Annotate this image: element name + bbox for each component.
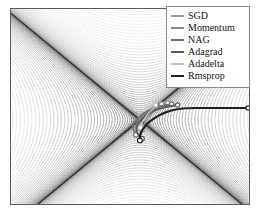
legend-swatch-nag bbox=[171, 39, 184, 41]
legend-swatch-adagrad bbox=[171, 51, 184, 53]
legend-swatch-rmsprop bbox=[171, 75, 184, 77]
legend-box: SGD Momentum NAG Adagrad Adadelta Rmspro… bbox=[166, 6, 250, 88]
legend-item-adadelta[interactable]: Adadelta bbox=[169, 58, 246, 70]
legend-item-sgd[interactable]: SGD bbox=[169, 10, 246, 22]
legend-item-nag[interactable]: NAG bbox=[169, 34, 246, 46]
legend-label-adagrad: Adagrad bbox=[188, 46, 222, 58]
legend-swatch-adadelta bbox=[171, 63, 184, 65]
legend-swatch-momentum bbox=[171, 27, 184, 29]
legend-label-momentum: Momentum bbox=[188, 22, 235, 34]
legend-label-rmsprop: Rmsprop bbox=[188, 70, 225, 82]
legend-label-adadelta: Adadelta bbox=[188, 58, 224, 70]
legend-item-adagrad[interactable]: Adagrad bbox=[169, 46, 246, 58]
figure-root: SGD Momentum NAG Adagrad Adadelta Rmspro… bbox=[0, 0, 261, 219]
legend-label-nag: NAG bbox=[188, 34, 210, 46]
legend-item-momentum[interactable]: Momentum bbox=[169, 22, 246, 34]
legend-item-rmsprop[interactable]: Rmsprop bbox=[169, 70, 246, 82]
legend-label-sgd: SGD bbox=[188, 10, 208, 22]
legend-swatch-sgd bbox=[171, 15, 184, 17]
